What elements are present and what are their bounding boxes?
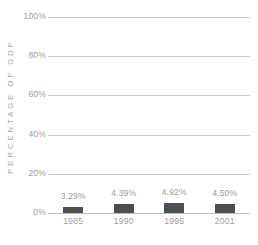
bar-value-label: 4.92% [162, 187, 187, 197]
y-tick-label: 60% [2, 89, 46, 99]
y-axis-tick-labels: 100%80%60%40%20%0% [0, 17, 46, 213]
bar-group: 4.39% [100, 17, 148, 213]
x-tick-label: 1995 [150, 216, 198, 226]
y-tick-label: 0% [2, 207, 46, 217]
bar[interactable] [114, 204, 134, 213]
y-tick-label: 40% [2, 129, 46, 139]
y-tick-label: 20% [2, 168, 46, 178]
bar-value-label: 4.50% [212, 188, 237, 198]
bar-value-label: 4.39% [111, 188, 136, 198]
y-tick-label: 100% [2, 11, 46, 21]
bar-group: 3.29% [49, 17, 97, 213]
bar-chart: PERCENTAGE OF GDP 100%80%60%40%20%0% 3.2… [0, 0, 258, 245]
plot-area: 3.29%4.39%4.92%4.50% [48, 17, 250, 213]
x-tick-label: 1985 [49, 216, 97, 226]
bar[interactable] [63, 207, 83, 213]
x-tick-label: 2001 [201, 216, 249, 226]
x-axis-tick-labels: 1985199019952001 [48, 216, 250, 232]
bar[interactable] [164, 203, 184, 213]
bar-value-label: 3.29% [61, 191, 86, 201]
bar-group: 4.50% [201, 17, 249, 213]
axis-baseline [48, 213, 250, 214]
x-tick-label: 1990 [100, 216, 148, 226]
bar-group: 4.92% [150, 17, 198, 213]
bar[interactable] [215, 204, 235, 213]
y-tick-label: 80% [2, 50, 46, 60]
